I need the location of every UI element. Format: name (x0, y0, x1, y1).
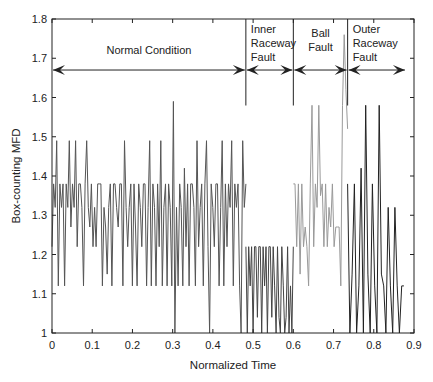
y-tick-label: 1.8 (32, 13, 47, 25)
y-tick-label: 1.2 (32, 249, 47, 261)
x-tick-label: 0.1 (85, 339, 100, 351)
region-label: Fault (251, 51, 275, 63)
x-tick-label: 0.6 (286, 339, 301, 351)
region-label: Normal Condition (106, 44, 191, 56)
x-tick-label: 0.9 (406, 339, 421, 351)
series-line (348, 105, 404, 333)
x-tick-label: 0.8 (366, 339, 381, 351)
y-tick-label: 1.5 (32, 131, 47, 143)
region-label: Ball (311, 27, 329, 39)
chart: 00.10.20.30.40.50.60.70.80.911.11.21.31.… (0, 0, 433, 382)
y-tick-label: 1 (41, 327, 47, 339)
series-line (52, 101, 246, 333)
x-axis-label: Normalized Time (190, 359, 276, 371)
y-tick-label: 1.1 (32, 288, 47, 300)
region-label: Fault (353, 51, 377, 63)
x-tick-label: 0 (49, 339, 55, 351)
region-label: Inner (251, 23, 276, 35)
x-tick-label: 0.2 (125, 339, 140, 351)
x-tick-label: 0.4 (205, 339, 220, 351)
y-tick-label: 1.3 (32, 209, 47, 221)
y-axis-label: Box-counting MFD (10, 128, 22, 223)
region-annotations: Normal ConditionInnerRacewayFaultBallFau… (53, 19, 405, 106)
x-tick-label: 0.7 (326, 339, 341, 351)
y-tick-label: 1.4 (32, 170, 47, 182)
region-label: Outer (353, 23, 381, 35)
y-tick-label: 1.6 (32, 92, 47, 104)
x-tick-label: 0.3 (165, 339, 180, 351)
region-label: Raceway (251, 37, 297, 49)
region-label: Raceway (353, 37, 399, 49)
x-tick-label: 0.5 (245, 339, 260, 351)
region-label: Fault (308, 41, 332, 53)
plot-lines (52, 35, 404, 333)
y-tick-label: 1.7 (32, 52, 47, 64)
series-line (246, 247, 293, 333)
